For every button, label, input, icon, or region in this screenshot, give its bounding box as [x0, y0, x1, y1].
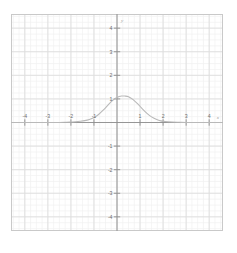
graph-figure: -4-3-2-112344321-1-2-3-4 x y: [0, 0, 237, 253]
svg-text:-3: -3: [46, 113, 51, 119]
svg-text:-4: -4: [108, 214, 113, 220]
svg-text:2: 2: [162, 113, 165, 119]
svg-text:-1: -1: [108, 143, 113, 149]
svg-text:3: 3: [110, 49, 113, 55]
svg-text:1: 1: [139, 113, 142, 119]
coordinate-plane-svg: -4-3-2-112344321-1-2-3-4 x y: [11, 14, 223, 231]
svg-text:-1: -1: [92, 113, 97, 119]
svg-text:1: 1: [110, 96, 113, 102]
svg-text:3: 3: [185, 113, 188, 119]
svg-text:2: 2: [110, 72, 113, 78]
svg-text:-4: -4: [23, 113, 28, 119]
chart-title: [0, 0, 1, 1]
svg-text:4: 4: [110, 25, 113, 31]
plot-area: -4-3-2-112344321-1-2-3-4 x y: [11, 14, 223, 231]
svg-text:-2: -2: [69, 113, 74, 119]
svg-text:-3: -3: [108, 190, 113, 196]
svg-text:4: 4: [208, 113, 211, 119]
svg-text:-2: -2: [108, 167, 113, 173]
x-axis-label: x: [216, 115, 220, 120]
